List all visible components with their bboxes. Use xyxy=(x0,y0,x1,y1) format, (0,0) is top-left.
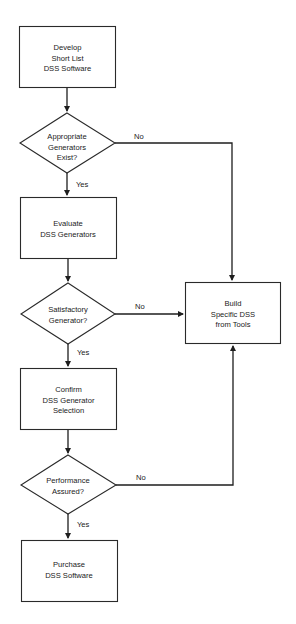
node-satisfactory-generator: Satisfactory Generator? xyxy=(21,283,115,344)
node-develop-short-list: Develop Short List DSS Software xyxy=(20,27,116,88)
node-text-line: DSS Generator xyxy=(43,396,95,405)
process-box xyxy=(21,198,117,259)
edge-label-satisfactory-no: No xyxy=(135,302,145,311)
node-build-specific-dss: Build Specific DSS from Tools xyxy=(186,283,281,344)
node-text-line: Satisfactory xyxy=(48,305,88,314)
node-performance-assured: Performance Assured? xyxy=(21,455,116,514)
node-evaluate-dss-generators: Evaluate DSS Generators xyxy=(21,198,117,259)
node-text-line: Confirm xyxy=(55,385,82,394)
node-text-line: Assured? xyxy=(52,487,84,496)
node-text-line: Purchase xyxy=(53,560,85,569)
node-text-line: Generators xyxy=(48,143,86,152)
node-text-line: Build xyxy=(225,299,242,308)
node-confirm-dss-generator-selection: Confirm DSS Generator Selection xyxy=(21,369,117,430)
node-text-line: Specific DSS xyxy=(211,310,255,319)
node-text-line: DSS Generators xyxy=(40,230,96,239)
edge-label-performance-no: No xyxy=(136,473,146,482)
node-appropriate-generators-exist: Appropriate Generators Exist? xyxy=(20,113,115,173)
node-text-line: Exist? xyxy=(57,153,78,162)
node-text-line: Evaluate xyxy=(53,219,83,228)
node-text-line: Short List xyxy=(51,54,84,63)
edge-label-appropriate-no: No xyxy=(134,132,144,141)
node-text-line: DSS Software xyxy=(44,64,92,73)
node-text-line: Selection xyxy=(53,406,84,415)
edge-label-satisfactory-yes: Yes xyxy=(77,348,90,357)
node-text-line: DSS Software xyxy=(45,571,93,580)
edge-appropriate-no xyxy=(115,143,232,280)
node-text-line: Develop xyxy=(54,43,82,52)
node-text-line: Appropriate xyxy=(47,132,86,141)
edge-label-performance-yes: Yes xyxy=(77,520,90,529)
node-text-line: from Tools xyxy=(216,320,251,329)
node-purchase-dss-software: Purchase DSS Software xyxy=(22,541,118,602)
node-text-line: Generator? xyxy=(49,316,87,325)
edge-performance-no xyxy=(116,346,233,485)
edge-label-appropriate-yes: Yes xyxy=(76,180,89,189)
node-text-line: Performance xyxy=(46,476,89,485)
flowchart-canvas: No Yes No Yes No Yes Develop Short List … xyxy=(0,0,296,624)
